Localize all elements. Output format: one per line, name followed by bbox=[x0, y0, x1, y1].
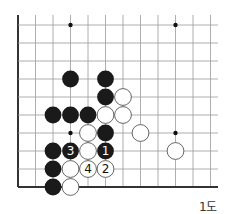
white-stone bbox=[62, 161, 79, 178]
move-number-label: 1 bbox=[102, 144, 110, 158]
black-stone-disc bbox=[97, 71, 114, 88]
move-number-label: 4 bbox=[84, 162, 92, 176]
black-stone-disc bbox=[97, 125, 114, 142]
hoshi-point bbox=[68, 131, 72, 135]
black-stone-disc bbox=[62, 71, 79, 88]
white-stone bbox=[115, 107, 132, 124]
white-stone bbox=[62, 179, 79, 196]
black-stone-disc bbox=[97, 89, 114, 106]
black-stone bbox=[97, 125, 114, 142]
black-stone bbox=[45, 143, 62, 160]
white-stone bbox=[80, 125, 97, 142]
black-stone-disc bbox=[45, 179, 62, 196]
black-stone-disc bbox=[45, 161, 62, 178]
white-stone-disc bbox=[115, 89, 132, 106]
black-stone bbox=[62, 107, 79, 124]
white-stone-disc bbox=[132, 125, 149, 142]
go-board: 3142 bbox=[0, 0, 235, 214]
white-stone-disc bbox=[80, 143, 97, 160]
white-stone: 4 bbox=[80, 161, 97, 178]
black-stone: 1 bbox=[97, 143, 114, 160]
black-stone-disc bbox=[62, 107, 79, 124]
black-stone bbox=[80, 107, 97, 124]
white-stone bbox=[115, 89, 132, 106]
move-number-label: 3 bbox=[67, 144, 75, 158]
white-stone-disc bbox=[80, 125, 97, 142]
white-stone-disc bbox=[97, 107, 114, 124]
white-stone bbox=[132, 125, 149, 142]
black-stone bbox=[97, 89, 114, 106]
black-stone bbox=[62, 71, 79, 88]
hoshi-point bbox=[173, 131, 177, 135]
white-stone bbox=[97, 107, 114, 124]
white-stone bbox=[167, 143, 184, 160]
black-stone bbox=[45, 107, 62, 124]
black-stone bbox=[45, 179, 62, 196]
hoshi-point bbox=[68, 23, 72, 27]
hoshi-point bbox=[173, 23, 177, 27]
black-stone bbox=[97, 71, 114, 88]
black-stone-disc bbox=[45, 143, 62, 160]
white-stone-disc bbox=[115, 107, 132, 124]
white-stone-disc bbox=[62, 179, 79, 196]
white-stone: 2 bbox=[97, 161, 114, 178]
move-number-label: 2 bbox=[102, 162, 110, 176]
diagram-caption: 1도 bbox=[199, 197, 217, 214]
white-stone-disc bbox=[62, 161, 79, 178]
white-stone-disc bbox=[167, 143, 184, 160]
black-stone: 3 bbox=[62, 143, 79, 160]
white-stone bbox=[80, 143, 97, 160]
black-stone bbox=[45, 161, 62, 178]
black-stone-disc bbox=[45, 107, 62, 124]
black-stone-disc bbox=[80, 107, 97, 124]
